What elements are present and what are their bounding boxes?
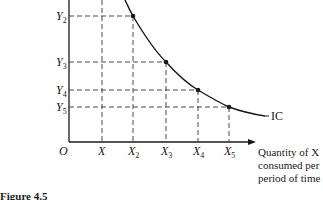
origin-label: O (59, 144, 68, 158)
x-axis-title-line: period of time (258, 172, 320, 185)
x-tick-label: X3 (160, 144, 172, 160)
x-axis-title-line: consumed per (258, 159, 320, 172)
x-tick-label: X2 (127, 144, 139, 160)
indifference-curve (125, 0, 265, 116)
vertical-guides (102, 0, 229, 142)
x-axis-arrow-icon (248, 139, 256, 145)
x-tick-label: X (97, 144, 106, 158)
y-tick-label: Y2 (56, 9, 67, 25)
x-tick-label: X5 (223, 144, 235, 160)
y-tick-label: Y5 (56, 100, 67, 116)
figure-caption: Figure 4.5 (0, 190, 47, 200)
y-tick-label: Y3 (56, 55, 67, 71)
curve-points (131, 14, 232, 110)
x-axis-title-line: Quantity of X (258, 146, 320, 159)
x-tick-label: X4 (192, 144, 204, 160)
y-tick-label: Y4 (56, 83, 67, 99)
curve-label: IC (271, 109, 283, 123)
x-axis-title: Quantity of X consumed per period of tim… (258, 146, 320, 185)
